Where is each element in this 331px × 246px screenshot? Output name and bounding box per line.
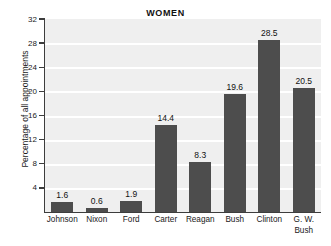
y-axis-tick-mark <box>39 187 44 188</box>
bar-value-label: 20.5 <box>284 76 324 86</box>
y-axis-tick-label: 20 <box>16 86 37 97</box>
y-axis-line <box>44 18 45 213</box>
bar-value-label: 1.9 <box>111 189 151 199</box>
bar <box>189 162 211 212</box>
x-axis-line <box>44 212 321 213</box>
bar-value-label: 19.6 <box>215 82 255 92</box>
y-axis-tick-mark <box>39 91 44 92</box>
y-axis-tick-label: 12 <box>16 134 37 145</box>
y-axis-tick-label: 32 <box>16 14 37 25</box>
y-axis-tick-mark <box>39 163 44 164</box>
y-axis-tick-mark <box>39 139 44 140</box>
x-axis-tick-label: G. W. Bush <box>282 215 326 236</box>
bar-value-label: 28.5 <box>249 28 289 38</box>
bar <box>120 201 142 212</box>
y-axis-tick-label: 8 <box>16 158 37 169</box>
y-axis-tick-mark <box>39 42 44 43</box>
y-axis-tick-label: 4 <box>16 182 37 193</box>
y-axis-tick-label: 16 <box>16 110 37 121</box>
bar <box>293 88 315 212</box>
chart-title: WOMEN <box>0 8 331 18</box>
y-axis-tick-mark <box>39 115 44 116</box>
bar-value-label: 14.4 <box>146 113 186 123</box>
y-axis-tick-mark <box>39 67 44 68</box>
bar <box>258 40 280 212</box>
bar <box>155 125 177 212</box>
bar <box>224 94 246 212</box>
y-axis-tick-mark <box>39 18 44 19</box>
bar-value-label: 8.3 <box>180 150 220 160</box>
y-axis-tick-label: 24 <box>16 62 37 73</box>
bar-chart: WOMEN Percentage of all appointments 481… <box>0 0 331 246</box>
y-axis-tick-label: 28 <box>16 38 37 49</box>
